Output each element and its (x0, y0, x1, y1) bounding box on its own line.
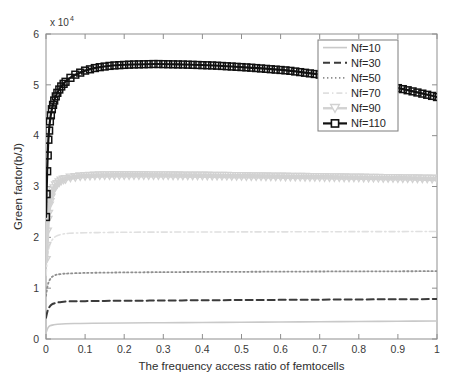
y-tick-label: 3 (33, 180, 39, 192)
legend-marker-square (331, 120, 338, 127)
x-tick-label: 0.1 (78, 343, 93, 355)
y-tick-label: 5 (33, 79, 39, 91)
y-tick-label: 6 (33, 28, 39, 40)
legend-item-nf-110[interactable]: Nf=110 (323, 117, 386, 129)
legend-label: Nf=10 (351, 42, 381, 54)
y-tick-label: 1 (33, 282, 39, 294)
x-tick-label: 0.9 (391, 343, 406, 355)
legend-label: Nf=110 (351, 117, 386, 129)
legend-label: Nf=50 (351, 72, 381, 84)
x-tick-label: 0.8 (351, 343, 366, 355)
y-tick-label: 0 (33, 333, 39, 345)
green-factor-line-chart: 00.10.20.30.40.50.60.70.80.910123456x 10… (0, 0, 453, 389)
legend-label: Nf=90 (351, 102, 381, 114)
y-axis-exponent-label: x 104 (50, 15, 74, 28)
y-tick-label: 2 (33, 231, 39, 243)
x-tick-label: 0.2 (117, 343, 132, 355)
x-tick-label: 0.5 (234, 343, 249, 355)
svg-text:4: 4 (70, 15, 74, 22)
svg-text:x 10: x 10 (50, 17, 69, 28)
y-tick-labels: 0123456 (33, 28, 39, 345)
legend: Nf=10Nf=30Nf=50Nf=70Nf=90Nf=110 (318, 40, 398, 131)
x-tick-label: 0.7 (312, 343, 327, 355)
x-axis-title: The frequency access ratio of femtocells (139, 360, 345, 372)
y-tick-label: 4 (33, 129, 39, 141)
y-axis-title: Green factor(b/J) (12, 143, 24, 230)
x-tick-labels: 00.10.20.30.40.50.60.70.80.91 (43, 343, 440, 355)
chart-figure: 00.10.20.30.40.50.60.70.80.910123456x 10… (0, 0, 453, 389)
x-tick-label: 0.3 (156, 343, 171, 355)
legend-label: Nf=70 (351, 87, 381, 99)
x-tick-label: 1 (434, 343, 440, 355)
x-tick-label: 0.6 (273, 343, 288, 355)
legend-label: Nf=30 (351, 57, 381, 69)
x-tick-label: 0.4 (195, 343, 210, 355)
x-tick-label: 0 (43, 343, 49, 355)
